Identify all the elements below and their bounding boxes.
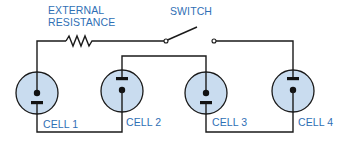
- cell-1: CELL 1: [16, 72, 78, 130]
- external-resistance-label-line2: RESISTANCE: [48, 16, 115, 28]
- external-resistance-label-line1: EXTERNAL: [48, 4, 104, 16]
- middle-wire-cell2-cell3: [122, 56, 206, 72]
- cell-4-label: CELL 4: [298, 116, 333, 128]
- zigzag-resistor-icon: [66, 36, 95, 46]
- switch-label: SWITCH: [170, 5, 212, 17]
- cell-3-label: CELL 3: [212, 116, 247, 128]
- cell-2: CELL 2: [101, 70, 161, 128]
- top-wire-left: [37, 41, 66, 72]
- cell-1-label: CELL 1: [43, 118, 78, 130]
- circuit-diagram: EXTERNAL RESISTANCE SWITCH CELL 1: [0, 0, 347, 142]
- open-switch-icon: [164, 27, 216, 43]
- cell-3: CELL 3: [185, 72, 247, 128]
- cell-4: CELL 4: [272, 70, 333, 128]
- cell-2-label: CELL 2: [126, 116, 161, 128]
- top-wire-right: [216, 41, 293, 70]
